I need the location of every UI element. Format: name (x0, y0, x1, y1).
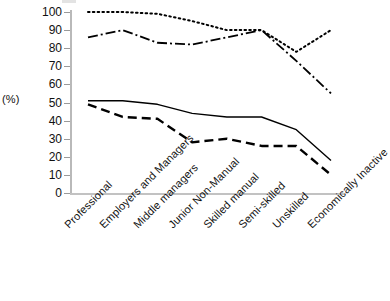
y-tick-mark (64, 84, 70, 85)
y-tick-mark (64, 157, 70, 158)
y-tick-mark (64, 193, 70, 194)
y-tick-mark (64, 66, 70, 67)
y-tick-mark (64, 139, 70, 140)
y-tick-mark (64, 12, 70, 13)
y-tick-mark (64, 48, 70, 49)
y-tick-mark (64, 103, 70, 104)
y-tick-mark (64, 30, 70, 31)
y-tick-mark (64, 121, 70, 122)
y-tick-mark (64, 175, 70, 176)
x-tick-label: Economically Inactive (305, 146, 390, 231)
